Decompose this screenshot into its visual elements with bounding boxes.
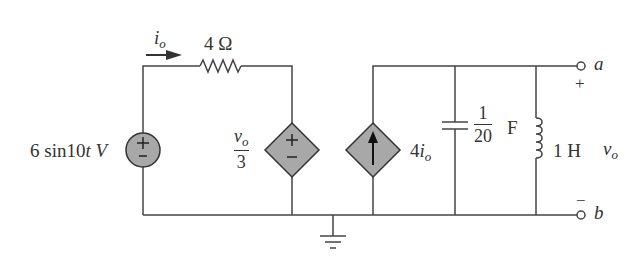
- dependent-current-label: 4io: [410, 141, 431, 163]
- current-io-label: io: [154, 28, 166, 50]
- resistor-label: 4 Ω: [204, 34, 232, 53]
- wire-top-left: [143, 66, 200, 133]
- inductor-label: 1 H: [553, 141, 581, 160]
- output-voltage-label: vo: [603, 139, 618, 161]
- terminal-b-node: [577, 211, 585, 219]
- source-voltage-label: 6 sin10t V: [30, 141, 107, 160]
- dependent-voltage-label: vo 3: [234, 127, 249, 171]
- capacitor-label: 1 20: [474, 104, 492, 145]
- inductor-1h: [536, 118, 542, 158]
- circuit-diagram: [0, 0, 643, 261]
- terminal-b-label: b: [594, 203, 604, 222]
- arrow-right-icon: [166, 50, 182, 60]
- terminal-a-polarity: +: [575, 75, 585, 92]
- terminal-b-polarity: −: [576, 192, 586, 209]
- resistor-4ohm: [200, 60, 241, 72]
- wire-top-mid: [241, 66, 292, 123]
- terminal-a-node: [577, 62, 585, 70]
- capacitor-unit: F: [507, 118, 518, 137]
- terminal-a-label: a: [594, 54, 604, 73]
- dependent-voltage-source: [265, 123, 319, 177]
